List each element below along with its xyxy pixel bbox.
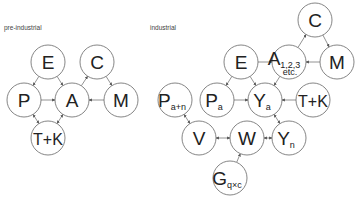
industrial-edge-ya-yn [274, 114, 280, 123]
industrial-node-a: A1,2,3etc. [268, 45, 306, 79]
industrial-edge-c-m [323, 35, 329, 47]
pre-industrial-label: pre-industrial [4, 24, 42, 32]
pre-industrial-edge-a-c [81, 76, 87, 86]
industrial-node-e: E [224, 45, 258, 79]
node-label: T+K [298, 93, 328, 110]
node-label: C [90, 52, 104, 73]
node-label: T+K [33, 131, 63, 148]
industrial-node-c: C [298, 3, 332, 37]
pre-industrial-node-a: A [55, 83, 89, 117]
industrial-label: industrial [150, 24, 177, 31]
industrial-node-g: Gq×c [212, 161, 247, 195]
industrial-edge-g-w [237, 154, 241, 163]
pre-industrial-node-c: C [80, 45, 114, 79]
industrial-edge-e-ya [250, 76, 256, 85]
pre-industrial-node-e: E [31, 45, 65, 79]
pre-industrial-edge-e-p [33, 76, 39, 85]
industrial-node-ya: Ya [248, 83, 282, 117]
pre-industrial-edge-e-a [57, 76, 63, 85]
industrial-node-w: W [230, 121, 264, 155]
industrial-edge-a-ya [274, 76, 280, 85]
node-label: M [113, 90, 129, 111]
node-label: C [308, 10, 322, 31]
pre-industrial-edge-c-m [106, 76, 112, 85]
industrial-node-pa: Pa [200, 83, 234, 117]
node-sublabel: etc. [283, 67, 298, 77]
node-label: M [329, 52, 345, 73]
pre-industrial-edge-a-tk [57, 114, 63, 123]
node-label: E [42, 52, 55, 73]
pre-industrial-edge-p-tk [33, 114, 39, 123]
industrial-node-pan: Pa+n [158, 83, 192, 117]
industrial-node-yn: Yn [272, 121, 306, 155]
industrial-node-v: V [182, 121, 216, 155]
pre-industrial-node-tk: T+K [31, 121, 65, 155]
industrial-edge-a-c [298, 34, 306, 47]
node-label: W [238, 128, 256, 149]
node-label: P [18, 90, 31, 111]
node-label: V [193, 128, 206, 149]
nodes-layer: ECPAMT+KCEA1,2,3etc.MPa+nPaYaT+KVWYnGq×c [7, 3, 354, 195]
pre-industrial-node-m: M [104, 83, 138, 117]
industrial-node-m: M [320, 45, 354, 79]
diagram-canvas: pre-industrial industrial ECPAMT+KCEA1,2… [0, 0, 363, 204]
industrial-node-tk: T+K [296, 83, 330, 117]
pre-industrial-node-p: P [7, 83, 41, 117]
industrial-edge-e-pa [226, 76, 232, 85]
node-label: E [235, 52, 248, 73]
node-label: A [66, 90, 79, 111]
industrial-edge-pan-v [184, 114, 190, 123]
